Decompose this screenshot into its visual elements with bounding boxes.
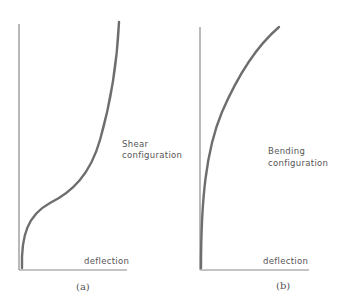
deflection-diagram: deflection Shear configuration (a) defle… xyxy=(0,0,348,307)
panel-a-shear-curve xyxy=(22,22,119,268)
panel-b-annotation-line1: Bending xyxy=(268,146,305,156)
panel-b-x-axis-label: deflection xyxy=(263,256,308,266)
panel-a: deflection Shear configuration (a) xyxy=(19,22,182,292)
panel-b-annotation-line2: configuration xyxy=(268,158,328,168)
panel-b-caption: (b) xyxy=(276,280,290,291)
panel-a-annotation-line1: Shear xyxy=(122,139,148,149)
panel-a-x-axis-label: deflection xyxy=(84,256,129,266)
panel-a-annotation-line2: configuration xyxy=(122,150,182,160)
panel-a-caption: (a) xyxy=(76,281,90,292)
panel-b: deflection Bending configuration (b) xyxy=(200,27,328,291)
